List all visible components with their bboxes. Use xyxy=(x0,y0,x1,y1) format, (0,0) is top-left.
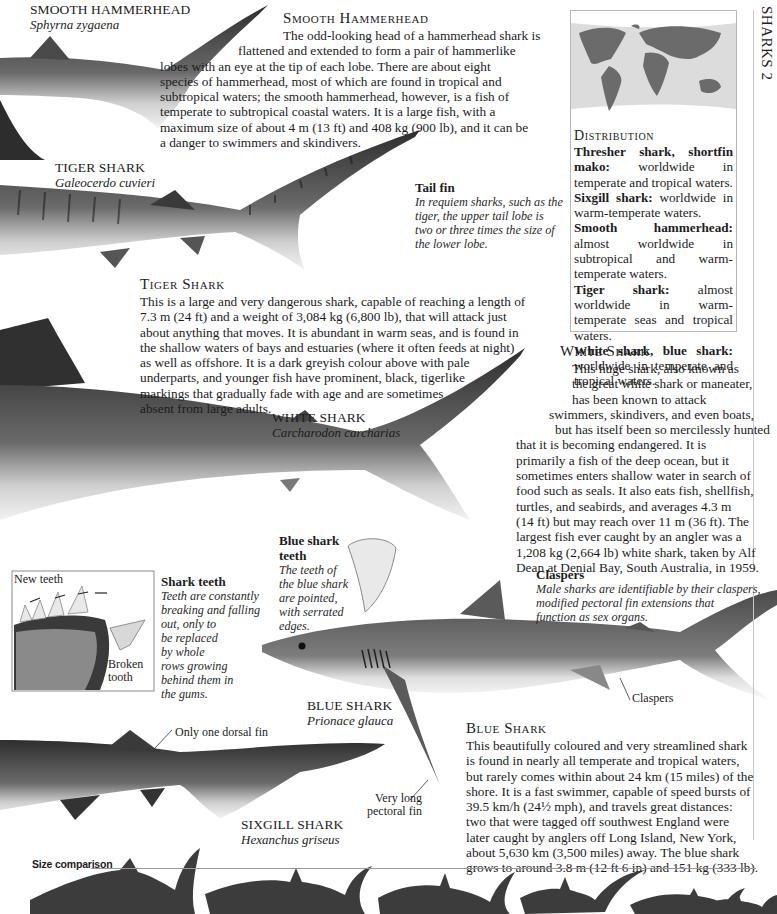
distribution-species: Tiger shark: xyxy=(574,282,669,297)
body-line: but rarely comes within about 24 km (15 … xyxy=(466,769,758,784)
tiger-shark-body: This is a large and very dangerous shark… xyxy=(140,294,525,416)
body-line: later caught by anglers off Long Island,… xyxy=(466,830,758,845)
smooth-hammerhead-heading: Smooth Hammerhead xyxy=(283,10,429,27)
body-line: 7.3 m (24 ft) and a weight of 3,084 kg (… xyxy=(140,309,525,324)
body-line: underparts, and younger fish have promin… xyxy=(140,370,525,385)
body-line: This beautifully coloured and very strea… xyxy=(466,738,758,753)
tiger-shark-heading: Tiger Shark xyxy=(140,276,225,293)
distribution-box: Distribution Thresher shark, shortfin ma… xyxy=(570,10,737,332)
body-line: species of hammerhead, most of which are… xyxy=(160,74,540,89)
caption-line: are pointed, xyxy=(279,591,348,605)
body-line: lobes with an eye at the tip of each lob… xyxy=(160,59,540,74)
body-line: 1,208 kg (2,664 lb) white shark, taken b… xyxy=(516,545,770,560)
white-shark-body: This huge shark, also known as the great… xyxy=(528,361,770,575)
broken-tooth-label: Broken tooth xyxy=(108,658,143,684)
claspers-caption: Claspers Male sharks are identifiable by… xyxy=(536,567,761,624)
body-line: 39.5 km/h (24½ mph), and travels great d… xyxy=(466,799,758,814)
distribution-species: Sixgill shark: xyxy=(574,190,653,205)
caption-line: by whole xyxy=(161,645,260,659)
caption-line: Male sharks are identifiable by their cl… xyxy=(536,582,761,596)
body-line: about anything that moves. It is abundan… xyxy=(140,325,525,340)
body-line: is found in nearly all temperate and tro… xyxy=(466,753,758,768)
body-line: This is a large and very dangerous shark… xyxy=(140,294,525,309)
caption-title: Shark teeth xyxy=(161,574,260,589)
body-line: a danger to swimmers and skindivers. xyxy=(160,135,540,150)
caption-title: teeth xyxy=(279,548,348,563)
scientific-name: Galeocerdo cuvieri xyxy=(55,175,155,190)
body-line: two that were tagged off southwest Engla… xyxy=(466,814,758,829)
common-name: BLUE SHARK xyxy=(307,698,393,713)
caption-line: rows growing xyxy=(161,659,260,673)
distribution-entry: Smooth hammerhead: almost worldwide in s… xyxy=(574,220,733,281)
caption-line: be replaced xyxy=(161,631,260,645)
body-line: turtles, and seabirds, and averages 4.3 … xyxy=(516,499,770,514)
caption-line: edges. xyxy=(279,619,348,633)
caption-line: with serrated xyxy=(279,605,348,619)
caption-line: breaking and falling xyxy=(161,603,260,617)
body-line: swimmers, skindivers, and even boats, xyxy=(528,407,770,422)
caption-line: the gums. xyxy=(161,687,260,701)
common-name: TIGER SHARK xyxy=(55,160,155,175)
blue-shark-teeth-caption: Blue shark teeth The teeth of the blue s… xyxy=(279,533,348,633)
label-line: pectoral fin xyxy=(367,805,422,818)
scientific-name: Prionace glauca xyxy=(307,713,393,728)
body-line: This huge shark, also known as xyxy=(528,361,770,376)
caption-line: the blue shark xyxy=(279,577,348,591)
sixgill-shark-label: SIXGILL SHARK Hexanchus griseus xyxy=(241,817,343,847)
tail-fin-caption: Tail fin In requiem sharks, such as the … xyxy=(415,180,563,251)
body-line: subtropical waters; the smooth hammerhea… xyxy=(160,89,540,104)
common-name: SIXGILL SHARK xyxy=(241,817,343,832)
caption-title: Claspers xyxy=(536,567,761,582)
common-name: SMOOTH HAMMERHEAD xyxy=(30,2,190,17)
body-line: about 5,630 km (3,500 miles) away. The b… xyxy=(466,845,758,860)
smooth-hammerhead-body: The odd-looking head of a hammerhead sha… xyxy=(160,28,540,150)
distribution-species: Smooth hammerhead: xyxy=(574,220,733,235)
caption-line: In requiem sharks, such as the xyxy=(415,195,563,209)
distribution-entry: Sixgill shark: worldwide in warm-tempera… xyxy=(574,190,733,221)
body-line: but has itself been so mercilessly hunte… xyxy=(528,422,770,437)
sixgill-shark-illustration xyxy=(0,730,385,820)
body-line: that it is becoming endangered. It is xyxy=(516,437,770,452)
caption-line: The teeth of xyxy=(279,563,348,577)
caption-title: Blue shark xyxy=(279,533,348,548)
caption-line: modified pectoral fin extensions that xyxy=(536,596,761,610)
size-comparison-rule xyxy=(91,868,756,869)
caption-title: Tail fin xyxy=(415,180,563,195)
claspers-pointer-label: Claspers xyxy=(632,692,673,705)
caption-line: Teeth are constantly xyxy=(161,589,260,603)
distribution-heading: Distribution xyxy=(574,127,733,144)
body-line: markings that gradually fade with age an… xyxy=(140,386,525,401)
caption-line: function as sex organs. xyxy=(536,610,761,624)
distribution-range: almost worldwide in subtropical and warm… xyxy=(574,236,733,282)
shark-teeth-caption: Shark teeth Teeth are constantly breakin… xyxy=(161,574,260,701)
white-shark-heading: White Shark xyxy=(560,343,649,360)
caption-line: out, only to xyxy=(161,617,260,631)
body-line: sometimes enters shallow water in search… xyxy=(516,468,770,483)
label-line: tooth xyxy=(108,671,143,684)
dorsal-fin-pointer-label: Only one dorsal fin xyxy=(175,726,268,739)
body-line: has been known to attack xyxy=(528,392,770,407)
body-line: flattened and extended to form a pair of… xyxy=(160,43,540,58)
new-teeth-label: New teeth xyxy=(14,573,63,586)
body-line: The odd-looking head of a hammerhead sha… xyxy=(160,28,540,43)
caption-line: tiger, the upper tail lobe is xyxy=(415,209,563,223)
world-map-icon xyxy=(571,11,736,121)
distribution-entry: Tiger shark: almost worldwide in warm-te… xyxy=(574,282,733,343)
blue-shark-body: This beautifully coloured and very strea… xyxy=(466,738,758,876)
tiger-shark-label: TIGER SHARK Galeocerdo cuvieri xyxy=(55,160,155,190)
body-line: primarily a fish of the deep ocean, but … xyxy=(516,453,770,468)
blue-shark-heading: Blue Shark xyxy=(466,720,547,737)
common-name: WHITE SHARK xyxy=(272,410,400,425)
body-line: as well as offshore. It is a dark greyis… xyxy=(140,355,525,370)
scientific-name: Carcharodon carcharias xyxy=(272,425,400,440)
body-line: temperate to subtropical coastal waters.… xyxy=(160,104,540,119)
body-line: the great white shark or maneater, xyxy=(528,376,770,391)
running-head: SHARKS 2 xyxy=(758,6,775,80)
body-line: shore. It is a fast swimmer, capable of … xyxy=(466,784,758,799)
caption-line: behind them in xyxy=(161,673,260,687)
white-shark-label: WHITE SHARK Carcharodon carcharias xyxy=(272,410,400,440)
blue-shark-label: BLUE SHARK Prionace glauca xyxy=(307,698,393,728)
body-line: largest fish ever caught by an angler wa… xyxy=(516,529,770,544)
pectoral-fin-pointer-label: Very long pectoral fin xyxy=(367,792,422,818)
distribution-entry: Thresher shark, shortfin mako: worldwide… xyxy=(574,144,733,190)
